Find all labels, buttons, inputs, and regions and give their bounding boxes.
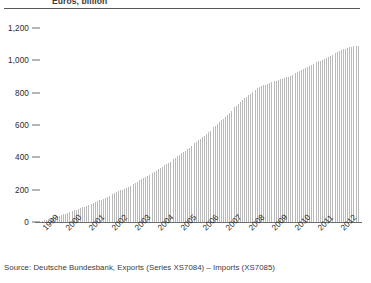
x-axis-tick-label: 2012 [339,213,359,233]
x-axis-tick-label: 1999 [41,213,61,233]
x-axis-tick-label: 2001 [87,213,107,233]
x-axis-tick-label: 2000 [64,213,84,233]
x-axis-tick-label: 2004 [156,213,176,233]
x-axis-tick-label: 2006 [201,213,221,233]
x-axis-tick-label: 2007 [224,213,244,233]
chart-figure: Euros, billion 02004006008001,0001,200 1… [0,0,371,283]
x-axis-tick-label: 2002 [110,213,130,233]
x-axis-tick-label: 2003 [133,213,153,233]
x-axis-tick-label: 2008 [247,213,267,233]
source-note: Source: Deutsche Bundesbank, Exports (Se… [4,263,275,272]
x-axis-labels: 1999200020012002200320042005200620072008… [0,0,371,283]
x-axis-tick-label: 2010 [293,213,313,233]
x-axis-tick-label: 2009 [270,213,290,233]
x-axis-tick-label: 2005 [179,213,199,233]
x-axis-tick-label: 2011 [316,213,335,232]
